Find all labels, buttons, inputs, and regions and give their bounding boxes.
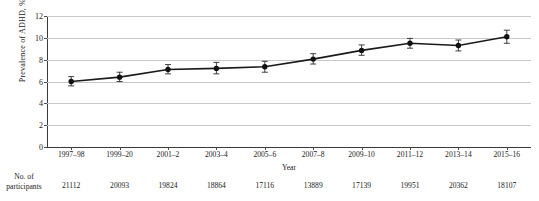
participant-count: 20093 bbox=[110, 181, 129, 190]
x-axis-tick-label: 2013–14 bbox=[445, 150, 472, 159]
adhd-prevalence-chart: Prevalence of ADHD, % 024681012 1997–981… bbox=[0, 0, 539, 201]
y-axis-tick-label: 6 bbox=[39, 77, 43, 86]
data-point-marker bbox=[407, 41, 412, 46]
y-axis-tick-mark bbox=[44, 147, 47, 148]
data-point-marker bbox=[311, 56, 316, 61]
x-axis-tick-label: 2001–2 bbox=[157, 150, 180, 159]
x-axis-tick-label: 2003–4 bbox=[205, 150, 228, 159]
x-axis-tick-label: 1997–98 bbox=[58, 150, 85, 159]
participants-row-label: No. of participants bbox=[2, 172, 46, 191]
x-axis-tick-label: 2011–12 bbox=[397, 150, 423, 159]
participant-count: 18107 bbox=[497, 181, 516, 190]
data-point-marker bbox=[117, 74, 122, 79]
data-point-marker bbox=[69, 79, 74, 84]
participant-count: 19951 bbox=[401, 181, 420, 190]
x-axis-title: Year bbox=[47, 163, 531, 172]
data-point-marker bbox=[262, 64, 267, 69]
participant-count: 13889 bbox=[304, 181, 323, 190]
x-axis-tick-label: 1999–20 bbox=[106, 150, 133, 159]
x-axis-tick-label: 2009–10 bbox=[348, 150, 375, 159]
data-point-marker bbox=[504, 34, 509, 39]
y-axis-tick-label: 2 bbox=[39, 121, 43, 130]
participant-count: 20362 bbox=[449, 181, 468, 190]
y-axis-tick-label: 10 bbox=[35, 33, 43, 42]
y-axis-tick-label: 12 bbox=[35, 12, 43, 21]
plot-area: 024681012 bbox=[47, 16, 531, 147]
participants-row-values: 2111220093198241886417116138891713919951… bbox=[47, 181, 531, 193]
x-axis-tick-label: 2015–16 bbox=[494, 150, 521, 159]
x-axis-tick-label: 2007–8 bbox=[302, 150, 325, 159]
participant-count: 21112 bbox=[62, 181, 80, 190]
x-axis-tick-labels: 1997–981999–202001–22003–42005–62007–820… bbox=[47, 150, 531, 162]
series-line-and-markers bbox=[47, 16, 531, 147]
participant-count: 17139 bbox=[352, 181, 371, 190]
participant-count: 18864 bbox=[207, 181, 226, 190]
participant-count: 17116 bbox=[255, 181, 274, 190]
data-point-marker bbox=[456, 43, 461, 48]
y-axis-title: Prevalence of ADHD, % bbox=[18, 0, 27, 101]
y-axis-tick-label: 0 bbox=[39, 143, 43, 152]
data-point-marker bbox=[165, 67, 170, 72]
data-point-marker bbox=[359, 48, 364, 53]
participants-label-line1: No. of bbox=[2, 172, 46, 182]
participants-label-line2: participants bbox=[2, 182, 46, 192]
series-line bbox=[71, 37, 507, 82]
y-axis-tick-label: 4 bbox=[39, 99, 43, 108]
y-axis-tick-label: 8 bbox=[39, 55, 43, 64]
data-point-marker bbox=[214, 66, 219, 71]
x-axis-tick-label: 2005–6 bbox=[253, 150, 276, 159]
participant-count: 19824 bbox=[159, 181, 178, 190]
